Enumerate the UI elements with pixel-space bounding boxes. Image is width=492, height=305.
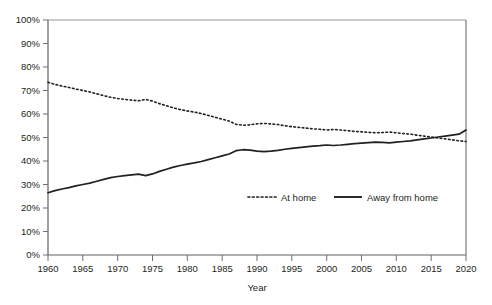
y-tick-label-10: 10% [21,226,41,237]
y-tick-label-100: 100% [16,14,41,25]
y-tick-label-0: 0% [26,249,40,260]
y-tick-label-20: 20% [21,202,41,213]
x-tick-label-2005: 2005 [351,263,372,274]
x-tick-label-1970: 1970 [107,263,128,274]
chart-background [0,0,492,305]
y-tick-label-50: 50% [21,132,41,143]
x-tick-label-1980: 1980 [177,263,198,274]
y-tick-label-90: 90% [21,38,41,49]
y-tick-label-30: 30% [21,179,41,190]
x-tick-label-2015: 2015 [421,263,442,274]
y-tick-label-80: 80% [21,61,41,72]
y-tick-label-70: 70% [21,85,41,96]
x-tick-label-2010: 2010 [386,263,407,274]
legend-label-away-from-home: Away from home [367,192,438,203]
x-tick-label-2000: 2000 [316,263,337,274]
y-tick-label-60: 60% [21,108,41,119]
x-tick-label-1990: 1990 [246,263,267,274]
x-tick-label-1960: 1960 [37,263,58,274]
x-tick-label-1995: 1995 [281,263,302,274]
x-axis-title: Year [247,282,266,293]
x-tick-label-1975: 1975 [142,263,163,274]
x-tick-label-1985: 1985 [212,263,233,274]
chart-container: 0% 10% 20% 30% 40% 50% 60% 70% 80% 90% 1… [0,0,492,305]
y-tick-label-40: 40% [21,155,41,166]
x-tick-label-2020: 2020 [455,263,476,274]
legend-label-at-home: At home [281,192,316,203]
line-chart: 0% 10% 20% 30% 40% 50% 60% 70% 80% 90% 1… [0,0,492,305]
x-tick-label-1965: 1965 [72,263,93,274]
